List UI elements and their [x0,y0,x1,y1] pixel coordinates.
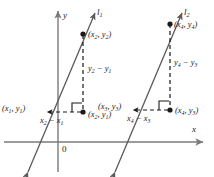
run-label-2: x4 − x3 [127,114,150,123]
origin-label: 0 [62,145,67,154]
point-label-x2-y2: (x2, y2) [88,30,111,39]
point-label-x4-y4: (x4, y4) [174,20,197,29]
point-x4-y4 [167,21,172,26]
y-axis-label: y [63,11,67,20]
point-x2-y2 [80,31,85,36]
point-label-x4-y3: (x4, y3) [175,106,198,115]
point-label-x1-y1: (x1, y1) [2,104,25,113]
geometry-figure: y x 0 l1 l2 (x2, y2) (x2, y1) (x1, y1) (… [0,0,214,177]
line-label-l2: l2 [184,8,190,17]
rise-label-2: y4 − y3 [174,58,197,67]
point-x2-y1 [80,109,85,114]
point-label-x3-y3: (x3, y3) [98,102,121,111]
right-angle-marker-2 [159,101,169,110]
point-x4-y3 [167,107,172,112]
run-label-1: x2 − x1 [40,116,63,125]
rise-label-1: y2 − y1 [88,64,111,73]
line-label-l1: l1 [97,8,103,17]
line-l2 [115,13,182,172]
right-angle-marker-1 [72,103,82,112]
x-axis-label: x [192,125,196,134]
